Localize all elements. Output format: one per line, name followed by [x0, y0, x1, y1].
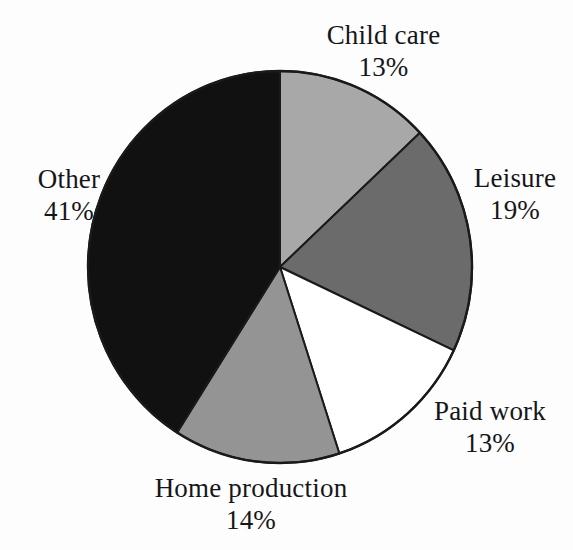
- pie-label-paid-work-value: 13%: [415, 428, 565, 460]
- pie-label-home-production: Home production 14%: [121, 473, 381, 537]
- pie-chart-svg: [0, 0, 573, 550]
- pie-label-child-care-value: 13%: [296, 52, 471, 84]
- pie-label-paid-work-name: Paid work: [415, 396, 565, 428]
- pie-label-home-production-name: Home production: [121, 473, 381, 505]
- pie-label-other: Other 41%: [9, 164, 129, 228]
- pie-label-leisure-name: Leisure: [455, 163, 573, 195]
- pie-label-paid-work: Paid work 13%: [415, 396, 565, 460]
- pie-label-other-value: 41%: [9, 196, 129, 228]
- pie-label-leisure: Leisure 19%: [455, 163, 573, 227]
- pie-chart-figure: Child care 13% Leisure 19% Paid work 13%…: [0, 0, 573, 550]
- pie-label-child-care-name: Child care: [296, 20, 471, 52]
- pie-label-leisure-value: 19%: [455, 195, 573, 227]
- pie-label-child-care: Child care 13%: [296, 20, 471, 84]
- pie-label-other-name: Other: [9, 164, 129, 196]
- pie-label-home-production-value: 14%: [121, 505, 381, 537]
